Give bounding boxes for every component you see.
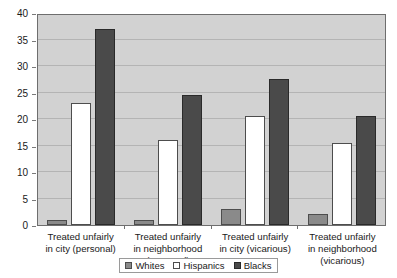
y-tick-mark	[32, 94, 36, 95]
x-category-label-line: Treated unfairly	[300, 231, 385, 243]
y-tick-label: 15	[17, 142, 28, 152]
x-tick-mark	[124, 225, 125, 229]
legend-label: Hispanics	[183, 260, 224, 271]
bar-whites	[134, 220, 154, 225]
x-category-label-line: in city (personal)	[38, 243, 123, 255]
y-tick-label: 10	[17, 168, 28, 178]
legend-swatch-icon	[173, 262, 180, 269]
bar-blacks	[269, 79, 289, 225]
bar-whites	[308, 214, 328, 225]
bar-hispanics	[245, 116, 265, 225]
legend-item-whites[interactable]: Whites	[125, 260, 164, 271]
legend-item-blacks[interactable]: Blacks	[234, 260, 272, 271]
y-tick-label: 35	[17, 36, 28, 46]
y-tick-mark	[32, 14, 36, 15]
y-tick-label: 40	[17, 9, 28, 19]
x-category-label-line: in city (vicarious)	[213, 243, 298, 255]
x-tick-mark	[211, 225, 212, 229]
bar-group	[125, 15, 212, 225]
x-category-label-line: in neighborhood	[125, 243, 210, 255]
y-tick-label: 30	[17, 62, 28, 72]
bar-whites	[221, 209, 241, 225]
x-category-label-line: Treated unfairly	[125, 231, 210, 243]
legend-label: Whites	[135, 260, 164, 271]
y-tick-label: 0	[22, 221, 28, 231]
legend-item-hispanics[interactable]: Hispanics	[173, 260, 224, 271]
y-tick-mark	[32, 200, 36, 201]
bars-layer	[38, 15, 385, 225]
bar-hispanics	[71, 103, 91, 225]
legend-label: Blacks	[244, 260, 272, 271]
y-tick-label: 5	[22, 195, 28, 205]
y-tick-mark	[32, 147, 36, 148]
x-category-label-line: Treated unfairly	[213, 231, 298, 243]
y-tick-mark	[32, 226, 36, 227]
y-axis: 0510152025303540	[0, 0, 36, 232]
legend-swatch-icon	[125, 262, 132, 269]
bar-hispanics	[158, 140, 178, 225]
bar-hispanics	[332, 143, 352, 225]
y-tick-mark	[32, 120, 36, 121]
x-category-label-line: Treated unfairly	[38, 231, 123, 243]
bar-blacks	[182, 95, 202, 225]
y-tick-label: 25	[17, 89, 28, 99]
legend: WhitesHispanicsBlacks	[0, 258, 397, 273]
x-tick-mark	[297, 225, 298, 229]
bar-chart: 0510152025303540 Treated unfairlyin city…	[0, 0, 397, 278]
bar-group	[298, 15, 385, 225]
legend-swatch-icon	[234, 262, 241, 269]
bar-group	[212, 15, 299, 225]
bar-blacks	[356, 116, 376, 225]
plot-area	[37, 14, 386, 226]
bar-group	[38, 15, 125, 225]
y-tick-label: 20	[17, 115, 28, 125]
y-tick-mark	[32, 41, 36, 42]
legend-box: WhitesHispanicsBlacks	[119, 258, 277, 273]
x-category-label-line: in neighborhood	[300, 243, 385, 255]
y-tick-mark	[32, 67, 36, 68]
y-tick-mark	[32, 173, 36, 174]
bar-blacks	[95, 29, 115, 225]
bar-whites	[47, 220, 67, 225]
